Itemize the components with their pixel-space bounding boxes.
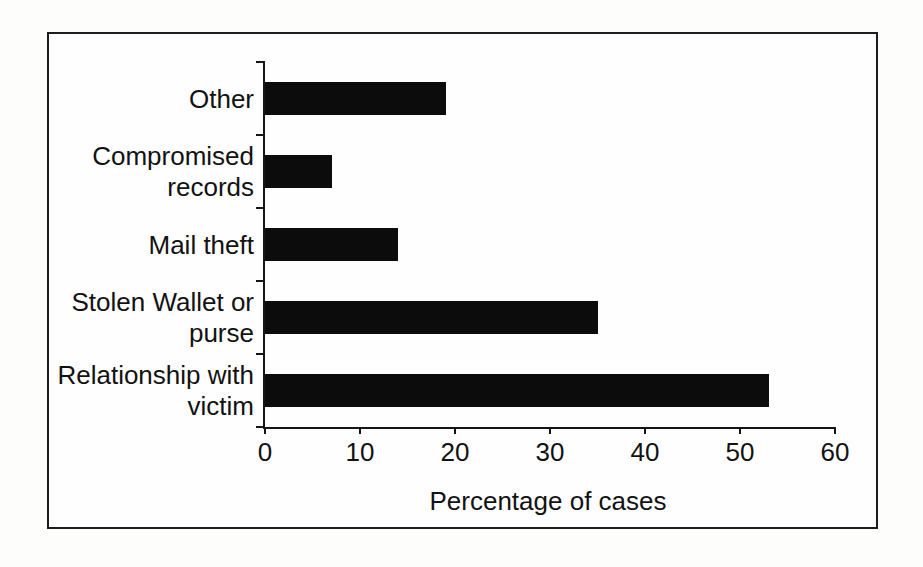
x-axis-tick-mark — [454, 427, 456, 434]
bar — [265, 374, 769, 407]
bar — [265, 82, 446, 115]
y-axis-category-tick — [256, 134, 265, 136]
x-axis-tick-mark — [644, 427, 646, 434]
category-label: Other — [39, 83, 254, 114]
category-label: Compromisedrecords — [39, 141, 254, 203]
bar-row: Compromisedrecords — [265, 135, 835, 208]
bar — [265, 155, 332, 188]
x-axis-tick-mark — [739, 427, 741, 434]
x-axis-tick-mark — [264, 427, 266, 434]
x-axis-tick-label: 10 — [346, 438, 375, 466]
y-axis-category-tick — [256, 353, 265, 355]
bar-row: Stolen Wallet orpurse — [265, 281, 835, 354]
category-label: Relationship withvictim — [39, 360, 254, 422]
x-axis-tick-mark — [834, 427, 836, 434]
x-axis-tick-label: 0 — [258, 438, 272, 466]
y-axis-category-tick — [256, 61, 265, 63]
x-axis-tick-label: 40 — [631, 438, 660, 466]
x-axis-title: Percentage of cases — [263, 486, 833, 517]
x-axis-tick-label: 60 — [821, 438, 850, 466]
x-axis-tick-label: 30 — [536, 438, 565, 466]
y-axis-category-tick — [256, 280, 265, 282]
plot-area: OtherCompromisedrecordsMail theftStolen … — [263, 62, 835, 429]
bar-row: Relationship withvictim — [265, 354, 835, 427]
bar — [265, 301, 598, 334]
y-axis-category-tick — [256, 207, 265, 209]
scanned-figure-page: OtherCompromisedrecordsMail theftStolen … — [0, 0, 923, 567]
category-label: Stolen Wallet orpurse — [39, 287, 254, 349]
x-axis-tick-mark — [359, 427, 361, 434]
x-axis-tick-mark — [549, 427, 551, 434]
x-axis-tick-label: 20 — [441, 438, 470, 466]
bar-row: Other — [265, 62, 835, 135]
x-axis-tick-label: 50 — [726, 438, 755, 466]
bar — [265, 228, 398, 261]
bar-row: Mail theft — [265, 208, 835, 281]
category-label: Mail theft — [39, 229, 254, 260]
figure-border-box: OtherCompromisedrecordsMail theftStolen … — [47, 32, 878, 529]
